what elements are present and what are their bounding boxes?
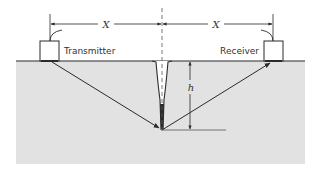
- receiver-cable-icon: [261, 30, 273, 41]
- separation-dimension-right: X: [163, 19, 272, 30]
- distance-label-left: X: [101, 19, 110, 30]
- tofd-diagram: X X Transmitter Receiver h: [0, 0, 320, 172]
- separation-dimension-left: X: [51, 19, 161, 30]
- transmitter-probe: Transmitter: [40, 30, 116, 62]
- transmitter-cable-icon: [50, 30, 62, 41]
- depth-label: h: [188, 82, 194, 93]
- receiver-label: Receiver: [220, 46, 259, 56]
- transmitter-label: Transmitter: [63, 46, 116, 56]
- receiver-probe: Receiver: [220, 30, 283, 62]
- distance-label-right: X: [211, 19, 220, 30]
